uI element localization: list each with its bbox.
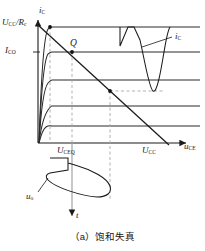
uo-waveform [46,158,110,197]
ic-waveform [120,27,170,91]
label-ico: ICO [5,45,16,55]
point-saturation [48,25,52,29]
point-lower-swing [108,89,112,93]
label-uo-waveform: uo [26,191,33,201]
characteristic-curve-4 [39,52,200,143]
label-ucc: UCC [142,145,156,155]
characteristic-curve-2 [39,126,200,143]
figure-caption: （a）饱和失真 [0,229,205,243]
ic-leader-line [142,37,172,47]
characteristic-curve-1 [39,106,200,143]
uo-leader-line [38,178,48,192]
point-q [70,50,74,54]
label-uceq: UCEQ [57,145,75,155]
label-axis-uce: uCE [184,141,196,151]
label-q-point: Q [70,38,77,48]
label-y-intercept-ucc-over-rc: UCC/Rc [2,17,26,27]
label-axis-ic: iC [39,5,45,15]
figure-saturation-distortion: iC UCC/Rc ICO Q UCEQ UCC uCE iC uo t （a）… [0,0,205,251]
characteristic-curve-3 [39,80,200,143]
label-axis-t: t [76,210,79,220]
label-ic-waveform: iC [175,31,181,41]
output-characteristic-curves [39,106,200,143]
dc-load-line [38,25,169,145]
